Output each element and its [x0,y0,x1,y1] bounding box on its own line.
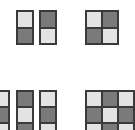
dark-cell [17,123,33,130]
dark-cell [102,91,118,107]
pattern-grid-3x3 [85,90,135,130]
light-cell [118,91,134,107]
dark-cell [0,107,9,123]
light-cell [86,123,102,130]
pattern-col-c [0,90,10,130]
light-cell [0,91,9,107]
dark-cell [118,107,134,123]
pattern-col-b [39,10,57,45]
dark-cell [102,123,118,130]
light-cell [102,107,118,123]
light-cell [40,28,56,45]
dark-cell [17,28,33,45]
pattern-grid-2x2 [85,10,119,45]
light-cell [0,123,9,130]
light-cell [86,91,102,107]
dark-cell [40,11,56,28]
pattern-col-a [16,10,34,45]
pattern-col-d [16,90,34,130]
dark-cell [17,91,33,107]
dark-cell [40,107,56,123]
light-cell [86,11,102,28]
light-cell [40,91,56,107]
dark-cell [102,11,118,28]
light-cell [118,123,134,130]
light-cell [17,107,33,123]
pattern-col-e [39,90,57,130]
dark-cell [86,28,102,45]
light-cell [40,123,56,130]
light-cell [102,28,118,45]
dark-cell [86,107,102,123]
light-cell [17,11,33,28]
